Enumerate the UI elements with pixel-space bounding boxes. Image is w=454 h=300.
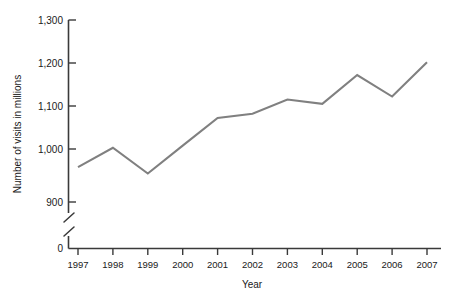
x-tick-label-2003: 2003 xyxy=(277,259,298,270)
data-series-line xyxy=(78,62,427,173)
x-tick-label-2005: 2005 xyxy=(347,259,368,270)
x-tick-label-1999: 1999 xyxy=(137,259,158,270)
x-tick-label-1998: 1998 xyxy=(102,259,123,270)
y-tick-label-900: 900 xyxy=(46,197,63,208)
line-chart: 1,300 1,200 1,100 1,000 900 0 1997 1998 … xyxy=(0,0,454,300)
axis-break-slash-upper xyxy=(64,213,74,222)
x-tick-label-2002: 2002 xyxy=(242,259,263,270)
x-tick-label-2004: 2004 xyxy=(312,259,333,270)
x-tick-label-2001: 2001 xyxy=(207,259,228,270)
x-tick-label-2007: 2007 xyxy=(416,259,437,270)
y-tick-label-1200: 1,200 xyxy=(38,58,63,69)
y-axis-title: Number of visits in millions xyxy=(12,75,23,193)
y-axis-zero-label: 0 xyxy=(57,243,63,254)
y-tick-label-1300: 1,300 xyxy=(38,15,63,26)
y-tick-label-1000: 1,000 xyxy=(38,144,63,155)
y-tick-label-1100: 1,100 xyxy=(38,101,63,112)
x-tick-label-2006: 2006 xyxy=(382,259,403,270)
x-tick-label-1997: 1997 xyxy=(67,259,88,270)
chart-container: 1,300 1,200 1,100 1,000 900 0 1997 1998 … xyxy=(0,0,454,300)
axis-break-slash-lower xyxy=(64,227,74,236)
x-tick-label-2000: 2000 xyxy=(172,259,193,270)
x-axis-title: Year xyxy=(242,279,263,290)
